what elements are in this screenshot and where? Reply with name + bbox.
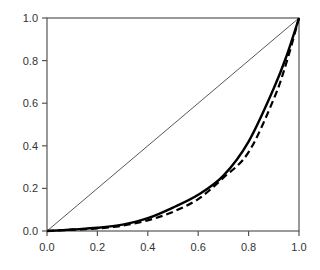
x-tick-label: 0.6 [191,241,206,253]
y-tick-label: 0.4 [23,140,38,152]
x-tick-label: 0.0 [39,241,54,253]
x-tick-label: 0.4 [140,241,155,253]
x-tick-label: 0.2 [90,241,105,253]
x-axis: 0.00.20.40.60.81.0 [39,231,306,253]
y-tick-label: 1.0 [23,12,38,24]
y-tick-label: 0.8 [23,55,38,67]
lorenz-chart: 0.00.20.40.60.81.0 0.00.20.40.60.81.0 [0,0,320,270]
equality-line [47,18,299,231]
y-tick-label: 0.0 [23,225,38,237]
y-tick-label: 0.2 [23,182,38,194]
y-tick-label: 0.6 [23,97,38,109]
x-tick-label: 1.0 [291,241,306,253]
x-tick-label: 0.8 [241,241,256,253]
y-axis: 0.00.20.40.60.81.0 [23,12,47,237]
series-layer [47,18,299,231]
